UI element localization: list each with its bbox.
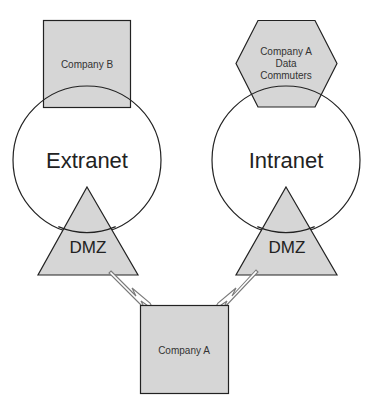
company-a-node: Company A [141, 306, 229, 394]
dmz-left-label: DMZ [70, 238, 107, 257]
intranet-label: Intranet [249, 148, 324, 173]
company-b-label: Company B [61, 59, 114, 70]
data-commuters-node: Company A Data Commuters [236, 21, 337, 108]
dmz-left-node: DMZ [38, 187, 138, 275]
extranet-label: Extranet [46, 148, 128, 173]
dmz-right-label: DMZ [269, 238, 306, 257]
dmz-right-node: DMZ [236, 187, 337, 275]
data-commuters-label-line2: Data [275, 58, 297, 69]
data-commuters-label-line1: Company A [260, 46, 312, 57]
company-b-node: Company B [44, 21, 131, 108]
data-commuters-label-line3: Commuters [260, 70, 312, 81]
network-diagram: Company B Company A Data Commuters Extra… [0, 0, 374, 405]
company-a-label: Company A [158, 345, 210, 356]
